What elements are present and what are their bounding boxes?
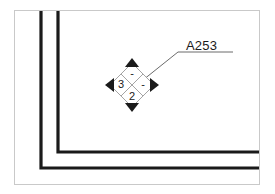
triangle-tip-bottom-icon xyxy=(125,103,139,112)
triangle-tip-top-icon xyxy=(125,58,139,67)
nfpa-704-diamond[interactable]: - 3 - 2 xyxy=(105,58,159,112)
triangle-tip-left-icon xyxy=(105,78,114,92)
drawing-canvas: - 3 - 2 A253 xyxy=(0,0,275,194)
diamond-quadrant-top-value: - xyxy=(130,67,134,79)
wall-inner xyxy=(58,11,259,152)
triangle-tip-right-icon xyxy=(150,78,159,92)
diamond-quadrant-left-value: 3 xyxy=(118,78,124,90)
room-label-a253: A253 xyxy=(186,39,217,52)
diamond-quadrant-right-value: - xyxy=(141,78,145,90)
floor-plan-svg: - 3 - 2 xyxy=(0,0,275,194)
diamond-quadrant-bottom-value: 2 xyxy=(129,90,135,102)
